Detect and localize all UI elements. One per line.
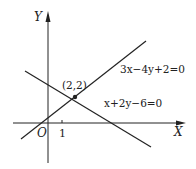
x-axis-label: X (173, 125, 183, 139)
y-axis-arrow-icon (46, 11, 51, 22)
coordinate-diagram: Y X O 1 (2,2) 3x−4y+2=0 x+2y−6=0 (0, 0, 196, 169)
intersection-point (73, 95, 77, 99)
x-tick-label: 1 (59, 127, 66, 140)
line-2-equation: x+2y−6=0 (104, 97, 162, 109)
intersection-label: (2,2) (62, 79, 87, 91)
y-axis-label: Y (34, 10, 43, 24)
origin-label: O (37, 126, 47, 140)
line-1-equation: 3x−4y+2=0 (120, 63, 185, 75)
